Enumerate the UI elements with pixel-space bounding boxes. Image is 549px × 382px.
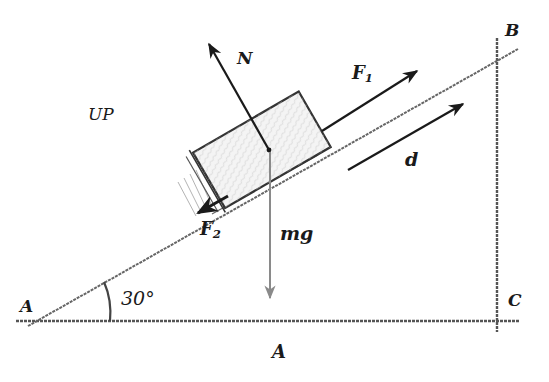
label-bottom-caption: A [272, 343, 286, 361]
angle-arc [104, 282, 110, 321]
label-vertex-a: A [20, 298, 33, 315]
label-applied-force-main: F [352, 62, 365, 83]
incline-ab [28, 49, 518, 326]
label-friction-force-main: F [200, 218, 213, 239]
inclined-plane-diagram [0, 0, 549, 382]
label-displacement: d [405, 150, 418, 169]
label-applied-force-sub: 1 [365, 71, 373, 85]
label-normal-force: N [237, 50, 253, 67]
label-friction-force-sub: 2 [213, 227, 221, 241]
label-weight: mg [280, 224, 313, 243]
label-angle: 30° [121, 289, 155, 308]
label-friction-force: F2 [200, 220, 221, 241]
label-vertex-c: C [508, 292, 522, 309]
label-applied-force: F1 [352, 64, 373, 85]
label-vertex-b: B [505, 22, 519, 39]
label-region-up: UP [88, 106, 114, 123]
